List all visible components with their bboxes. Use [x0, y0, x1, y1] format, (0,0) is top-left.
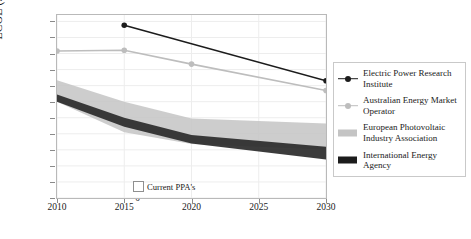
ppa-label: Current PPA's	[147, 182, 195, 192]
legend-label: Australian Energy Market Operator	[363, 95, 461, 116]
y-tick-mark	[50, 21, 55, 22]
data-point-marker	[189, 61, 195, 67]
legend-dot-icon	[345, 76, 351, 82]
y-tick-mark	[50, 118, 55, 119]
plot-frame	[56, 14, 327, 199]
x-tick-mark	[259, 199, 260, 203]
legend-key-band-dark-icon	[337, 153, 359, 167]
ppa-swatch-icon	[133, 181, 144, 192]
x-tick-mark	[57, 199, 58, 203]
legend-key-line-marker-light-icon	[337, 99, 359, 113]
x-tick-label: 2030	[317, 202, 336, 212]
chart-svg	[57, 15, 326, 198]
legend-label: Electric Power Research Institute	[363, 68, 461, 89]
legend-label: European Photovoltaic Industry Associati…	[363, 122, 461, 143]
legend-dot-icon	[345, 103, 351, 109]
x-tick-mark	[192, 199, 193, 203]
legend-key-band-light-icon	[337, 126, 359, 140]
chart-root: LCOE ($/MWh) 550500450400350300250200150…	[0, 0, 471, 239]
legend-label: International Energy Agency	[363, 150, 461, 171]
y-tick-mark	[50, 150, 55, 151]
legend-item[interactable]: Australian Energy Market Operator	[337, 95, 461, 116]
legend-item[interactable]: Electric Power Research Institute	[337, 68, 461, 89]
data-point-marker	[57, 48, 60, 54]
plot-area	[57, 15, 326, 198]
x-tick-label: 2010	[48, 202, 67, 212]
legend-item[interactable]: European Photovoltaic Industry Associati…	[337, 122, 461, 143]
x-tick-label: 2025	[249, 202, 268, 212]
x-tick-mark	[326, 199, 327, 203]
x-tick-mark	[124, 199, 125, 203]
current-ppa-annotation: Current PPA's	[133, 181, 195, 192]
y-tick-mark	[50, 70, 55, 71]
y-tick-mark	[50, 166, 55, 167]
legend-band-icon	[338, 130, 357, 137]
legend-item[interactable]: International Energy Agency	[337, 150, 461, 171]
y-axis-label: LCOE ($/MWh)	[0, 0, 4, 60]
y-tick-mark	[50, 54, 55, 55]
data-point-marker	[323, 78, 326, 84]
x-tick-label: 2020	[182, 202, 201, 212]
y-tick-mark	[50, 102, 55, 103]
y-tick-mark	[50, 198, 55, 199]
data-point-marker	[121, 48, 127, 54]
x-tick-label: 2015	[115, 202, 134, 212]
legend-band-icon	[338, 157, 357, 164]
data-point-marker	[323, 88, 326, 94]
y-tick-mark	[50, 182, 55, 183]
data-point-marker	[121, 22, 127, 28]
legend-key-line-marker-dark-icon	[337, 72, 359, 86]
y-tick-mark	[50, 37, 55, 38]
y-tick-mark	[50, 86, 55, 87]
chart-legend: Electric Power Research InstituteAustral…	[333, 62, 466, 177]
y-tick-mark	[50, 134, 55, 135]
